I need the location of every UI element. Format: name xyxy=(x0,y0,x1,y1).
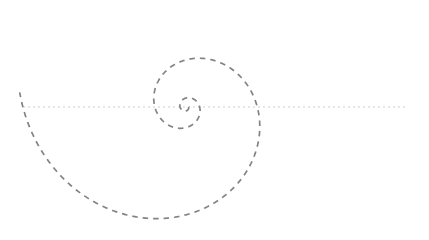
spiral-plot-canvas xyxy=(0,0,429,240)
plot-background xyxy=(0,0,429,240)
figure-root xyxy=(0,0,429,240)
